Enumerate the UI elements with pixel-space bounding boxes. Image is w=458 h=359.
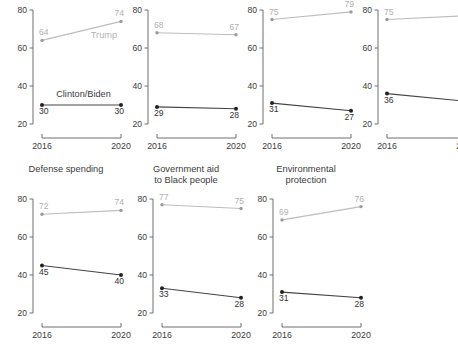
x-axis-tick-label: 2016	[32, 330, 52, 340]
y-axis-tick-label: 40	[17, 81, 27, 91]
series-label-clinton-biden: Clinton/Biden	[56, 89, 111, 99]
slope-panel: Defense spending204060802016202072744540	[4, 162, 128, 359]
x-axis-tick-label: 2016	[152, 330, 172, 340]
series-point	[239, 207, 242, 210]
data-value-label: 28	[354, 299, 364, 309]
series-point	[40, 39, 43, 42]
panel-plot: 204060802016202072744540	[4, 162, 128, 359]
series-line	[282, 207, 361, 220]
series-point	[160, 203, 163, 206]
y-axis-tick-label: 20	[17, 119, 27, 129]
y-axis-tick-label: 40	[17, 270, 27, 280]
data-value-label: 45	[39, 267, 49, 277]
series-point	[40, 213, 43, 216]
y-axis-tick-label: 80	[132, 5, 142, 15]
data-value-label: 31	[279, 293, 289, 303]
slope-panel: 204060802016202068672928	[119, 0, 233, 160]
y-axis-tick-label: 20	[247, 119, 257, 129]
x-axis-bracket	[272, 134, 351, 138]
data-value-label: 76	[354, 194, 364, 204]
series-line	[162, 205, 241, 209]
y-axis-tick-label: 40	[247, 81, 257, 91]
x-axis-tick-label: 2016	[272, 330, 292, 340]
x-axis-bracket	[42, 134, 121, 138]
series-line	[157, 33, 236, 35]
y-axis-tick-label: 80	[362, 5, 372, 15]
series-point	[280, 218, 283, 221]
data-value-label: 28	[234, 299, 244, 309]
x-axis-bracket	[157, 134, 236, 138]
panel-title: Government aid to Black people	[124, 164, 248, 185]
series-line	[42, 266, 121, 276]
y-axis-tick-label: 60	[137, 232, 147, 242]
x-axis-tick-label: 2016	[32, 141, 52, 151]
data-value-label: 30	[39, 106, 49, 116]
panel-plot: 204060802016202075793127	[234, 0, 348, 160]
y-axis-tick-label: 80	[257, 194, 267, 204]
y-axis-tick-label: 60	[132, 43, 142, 53]
series-point	[359, 205, 362, 208]
data-value-label: 74	[114, 197, 124, 207]
slope-panel: 204060802016202075773632	[349, 0, 458, 160]
y-axis-tick-label: 20	[137, 308, 147, 318]
series-line	[272, 103, 351, 111]
y-axis-tick-label: 60	[17, 232, 27, 242]
panel-plot: 204060802016202064743030TrumpClinton/Bid…	[4, 0, 118, 160]
data-value-label: 72	[39, 201, 49, 211]
series-line	[387, 16, 458, 20]
series-point	[385, 18, 388, 21]
data-value-label: 75	[234, 196, 244, 206]
y-axis-tick-label: 60	[362, 43, 372, 53]
data-value-label: 75	[269, 7, 279, 17]
y-axis-tick-label: 80	[17, 5, 27, 15]
series-point	[155, 31, 158, 34]
x-axis-bracket	[387, 134, 458, 138]
y-axis-tick-label: 80	[137, 194, 147, 204]
y-axis-tick-label: 20	[17, 308, 27, 318]
series-line	[157, 107, 236, 109]
x-axis-tick-label: 2016	[262, 141, 282, 151]
y-axis-tick-label: 40	[132, 81, 142, 91]
panel-title: Defense spending	[4, 164, 128, 175]
data-value-label: 75	[384, 7, 394, 17]
slope-panel: 204060802016202064743030TrumpClinton/Bid…	[4, 0, 118, 160]
data-value-label: 31	[269, 104, 279, 114]
slope-panel: 204060802016202075793127	[234, 0, 348, 160]
data-value-label: 36	[384, 95, 394, 105]
y-axis-tick-label: 60	[247, 43, 257, 53]
y-axis-tick-label: 20	[257, 308, 267, 318]
y-axis-tick-label: 80	[17, 194, 27, 204]
series-line	[272, 12, 351, 20]
data-value-label: 69	[279, 207, 289, 217]
series-label-trump: Trump	[91, 30, 117, 40]
panel-plot: 204060802016202068672928	[119, 0, 233, 160]
series-point	[119, 209, 122, 212]
x-axis-bracket	[42, 323, 121, 327]
data-value-label: 40	[114, 276, 124, 286]
slope-chart-figure: 204060802016202064743030TrumpClinton/Bid…	[0, 0, 458, 359]
x-axis-tick-label: 2016	[377, 141, 397, 151]
y-axis-tick-label: 60	[257, 232, 267, 242]
panel-plot: 204060802016202069763128	[244, 162, 368, 359]
series-line	[162, 288, 241, 298]
x-axis-bracket	[162, 323, 241, 327]
y-axis-tick-label: 20	[132, 119, 142, 129]
data-value-label: 68	[154, 20, 164, 30]
data-value-label: 77	[159, 192, 169, 202]
data-value-label: 33	[159, 289, 169, 299]
series-line	[42, 210, 121, 214]
slope-panel: Government aid to Black people2040608020…	[124, 162, 248, 359]
data-value-label: 64	[39, 27, 49, 37]
x-axis-bracket	[282, 323, 361, 327]
y-axis-tick-label: 80	[247, 5, 257, 15]
y-axis-tick-label: 40	[137, 270, 147, 280]
slope-panel: Environmental protection2040608020162020…	[244, 162, 368, 359]
x-axis-tick-label: 2020	[351, 330, 371, 340]
y-axis-tick-label: 40	[257, 270, 267, 280]
series-line	[282, 292, 361, 298]
panel-plot: 204060802016202075773632	[349, 0, 458, 160]
data-value-label: 29	[154, 108, 164, 118]
series-line	[387, 94, 458, 102]
x-axis-tick-label: 2016	[147, 141, 167, 151]
y-axis-tick-label: 40	[362, 81, 372, 91]
